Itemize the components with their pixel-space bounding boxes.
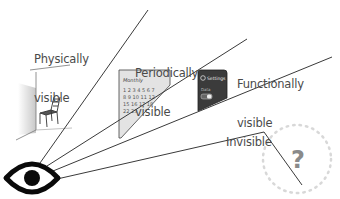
eye-icon [6, 164, 58, 192]
toggle-knob [207, 95, 212, 99]
label-line: Physically [34, 53, 89, 66]
label-line: visible [34, 92, 89, 105]
label-line: visible [135, 106, 198, 119]
visibility-diagram: Monthly 1 2 3 4 5 6 7 8 9 10 11 12 15 16… [0, 0, 340, 199]
label-invisible: Invisible [226, 110, 272, 175]
label-line: Functionally [237, 78, 304, 91]
phone-header: Settings [207, 76, 226, 81]
phone-illustration: Settings Data [198, 70, 227, 111]
label-line: Periodically [135, 67, 198, 80]
label-line: Invisible [226, 136, 272, 149]
label-physically-visible: Physically visible [34, 27, 89, 131]
label-periodically-visible: Periodically visible [135, 41, 198, 145]
phone-row-label: Data [201, 87, 211, 92]
